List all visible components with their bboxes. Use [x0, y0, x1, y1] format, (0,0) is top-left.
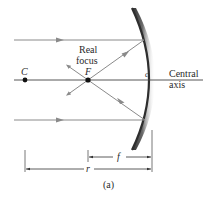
label-c-center: C: [21, 66, 28, 77]
label-vertex-c: c: [145, 70, 149, 79]
arrow-icon: [122, 51, 130, 58]
focal-length-dimension: f: [89, 151, 151, 162]
arrow-right-icon: [56, 38, 64, 43]
incident-ray-bottom: [14, 118, 145, 123]
center-of-curvature-point: [23, 78, 28, 83]
incident-ray-top: [14, 38, 144, 43]
concave-mirror: [132, 8, 155, 150]
label-real: Real: [79, 44, 98, 55]
reflected-ray-bottom: [68, 66, 145, 120]
label-focus: focus: [76, 55, 98, 66]
label-axis: axis: [169, 79, 185, 90]
label-f-focus: F: [84, 66, 92, 77]
label-central: Central: [169, 68, 199, 79]
figure-caption: (a): [103, 179, 114, 191]
arrow-right-icon: [56, 118, 64, 123]
label-r-radius: r: [86, 163, 90, 174]
radius-dimension: r: [26, 163, 151, 174]
concave-mirror-diagram: C F Real focus c Central axis f r (a): [0, 0, 214, 201]
label-f-length: f: [117, 151, 121, 162]
focal-point: [85, 77, 90, 82]
